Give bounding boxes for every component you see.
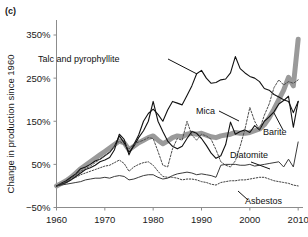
series-label-barite: Barite	[263, 127, 287, 137]
series-label-talc-and-pyrophyllite: Talc and pyrophyllite	[38, 54, 120, 64]
x-tick-label: 1960	[46, 214, 67, 225]
x-tick-label: 1980	[143, 214, 164, 225]
y-tick-label: 50%	[31, 159, 51, 170]
series-label-asbestos: Asbestos	[245, 196, 283, 206]
y-axis-title: Change in production since 1960	[5, 55, 16, 194]
series-label-diatomite: Diatomite	[230, 150, 268, 160]
y-tick-label: 350%	[26, 29, 51, 40]
panel-label: (c)	[5, 6, 16, 16]
production-change-line-chart: (c) Change in production since 1960 −50%…	[0, 0, 308, 237]
y-tick-label: −50%	[26, 202, 51, 213]
series-label-mica: Mica	[196, 106, 215, 116]
figure-panel-c: (c) Change in production since 1960 −50%…	[0, 0, 308, 237]
x-tick-label: 1970	[94, 214, 115, 225]
y-tick-label: 250%	[26, 73, 51, 84]
x-tick-label: 2000	[239, 214, 260, 225]
x-tick-label: 1990	[191, 214, 212, 225]
y-tick-label: 150%	[26, 116, 51, 127]
x-tick-label: 2010	[288, 214, 308, 225]
